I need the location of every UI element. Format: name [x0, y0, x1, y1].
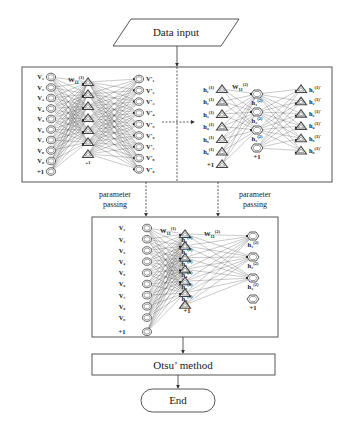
visible-unit-label: V₆ [37, 126, 44, 133]
dbn-flowchart: Data input V₁V₂V₃V₄V₅V₆V₇V₈V₉+1+1V'₁V'₂V… [0, 0, 353, 428]
reconstruction-unit-label: V'₅ [146, 121, 155, 128]
junction-dot [246, 235, 248, 237]
otsu-method-node: Otsu’ method [92, 354, 275, 375]
junction-dot [246, 256, 248, 258]
visible-unit-icon [134, 87, 143, 95]
junction-dot [179, 281, 181, 283]
visible-unit-label: V₈ [119, 303, 126, 310]
visible-unit-icon [142, 235, 151, 243]
junction-dot [250, 111, 252, 113]
reconstruction-unit-label: V'₄ [146, 109, 155, 116]
parameter-passing-left-line1: parameter [99, 190, 131, 199]
visible-unit-label: V₈ [37, 147, 44, 154]
end-label: End [169, 394, 187, 406]
junction-dot [179, 234, 181, 236]
visible-unit-icon [46, 168, 55, 176]
junction-dot [82, 83, 84, 85]
hidden-unit-hexagon-icon [247, 253, 259, 261]
hidden-unit-hexagon-icon [251, 108, 263, 116]
junction-dot [250, 129, 252, 131]
hidden-bias-label: +1 [86, 160, 92, 165]
visible-unit-icon [142, 269, 151, 277]
visible-unit-icon [46, 147, 55, 155]
visible-unit-icon [46, 157, 55, 165]
hidden-unit-hexagon-icon [251, 126, 263, 134]
visible-unit-icon [142, 258, 151, 266]
junction-dot [179, 269, 181, 271]
reconstruction-unit-label: V'₉ [146, 166, 155, 173]
visible-unit-icon [46, 115, 55, 123]
junction-dot [250, 93, 252, 95]
visible-unit-label: V₅ [37, 115, 44, 122]
junction-dot [82, 107, 84, 109]
visible-unit-icon [134, 143, 143, 151]
visible-unit-icon [46, 126, 55, 134]
visible-unit-label: V₁ [119, 224, 126, 231]
visible-unit-icon [134, 120, 143, 128]
visible-unit-label: V₃ [119, 247, 126, 254]
visible-unit-icon [46, 105, 55, 113]
visible-unit-label: V₄ [37, 105, 44, 112]
junction-dot [82, 119, 84, 121]
visible-unit-icon [142, 291, 151, 299]
visible-unit-icon [134, 166, 143, 174]
junction-dot [179, 293, 181, 295]
reconstruction-unit-label: V'₂ [146, 87, 155, 94]
parameter-passing-left-line2: passing [103, 200, 127, 209]
hidden-unit-hexagon-icon [247, 232, 259, 240]
hidden-unit-hexagon-icon [251, 90, 263, 98]
visible-unit-label: V₉ [37, 157, 44, 164]
junction-dot [82, 95, 84, 97]
hidden2-unit-label: +1 [250, 304, 257, 311]
data-input-label: Data input [153, 26, 199, 38]
hidden1-unit-label: +1 [184, 307, 191, 314]
visible-unit-icon [46, 73, 55, 81]
visible-unit-icon [134, 132, 143, 140]
visible-unit-label: V₃ [37, 94, 44, 101]
visible-unit-icon [142, 314, 151, 322]
visible-unit-label: V₇ [37, 136, 44, 143]
visible-unit-icon [142, 247, 151, 255]
visible-unit-icon [134, 75, 143, 83]
visible-unit-label: V₁ [37, 73, 44, 80]
visible-unit-icon [142, 328, 151, 336]
visible-unit-icon [46, 84, 55, 92]
visible-unit-icon [142, 303, 151, 311]
input-unit-label: +1 [207, 161, 214, 168]
reconstruction-unit-label: V'₆ [146, 132, 155, 139]
visible-unit-label: V₆ [119, 280, 126, 287]
visible-unit-label: V₄ [119, 258, 126, 265]
visible-unit-icon [46, 136, 55, 144]
visible-unit-label: +1 [119, 328, 126, 335]
visible-unit-label: V₂ [37, 84, 44, 91]
junction-dot [246, 277, 248, 279]
visible-unit-icon [142, 224, 151, 232]
hidden-unit-label: +1 [254, 153, 261, 160]
hidden-unit-hexagon-icon [251, 144, 263, 152]
parameter-passing-right-line1: parameter [239, 190, 271, 199]
parameter-passing-right-line2: passing [243, 200, 267, 209]
visible-unit-icon [134, 154, 143, 162]
reconstruction-unit-label: V'₇ [146, 143, 155, 150]
visible-unit-label: +1 [37, 168, 44, 175]
reconstruction-unit-label: V'₁ [146, 75, 155, 82]
junction-dot [179, 258, 181, 260]
reconstruction-unit-label: V'₃ [146, 98, 155, 105]
junction-dot [82, 143, 84, 145]
end-node: End [141, 389, 215, 412]
hidden-unit-hexagon-icon [247, 295, 259, 303]
hidden-unit-hexagon-icon [247, 274, 259, 282]
visible-unit-icon [134, 109, 143, 117]
visible-unit-icon [142, 280, 151, 288]
visible-unit-label: V₉ [119, 314, 126, 321]
junction-dot [179, 246, 181, 248]
junction-dot [82, 131, 84, 133]
reconstruction-unit-label: V'₈ [146, 154, 155, 161]
visible-unit-icon [46, 94, 55, 102]
visible-unit-label: V₂ [119, 236, 126, 243]
visible-unit-icon [134, 98, 143, 106]
data-input-node: Data input [113, 19, 239, 46]
visible-unit-label: V₇ [119, 292, 126, 299]
otsu-method-label: Otsu’ method [153, 359, 213, 371]
visible-unit-label: V₅ [119, 269, 126, 276]
